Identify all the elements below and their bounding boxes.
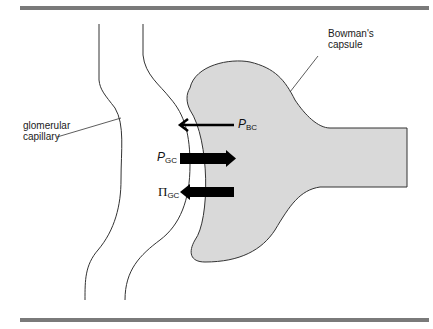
pbc-symbol: P xyxy=(238,117,246,131)
pgc-subscript: GC xyxy=(165,156,177,165)
pbc-subscript: BC xyxy=(246,123,257,132)
bowmans-capsule-label-line1: Bowman's xyxy=(328,28,374,39)
pigc-arrowhead-icon xyxy=(180,184,190,200)
pgc-symbol: P xyxy=(157,150,165,164)
pigc-label: ΠGC xyxy=(158,184,179,200)
glomerular-capillary-label: glomerular capillary xyxy=(23,120,70,142)
pigc-subscript: GC xyxy=(167,191,179,200)
capsule-leader-line xyxy=(290,56,318,92)
top-rule xyxy=(20,6,429,10)
pbc-label: PBC xyxy=(238,117,257,132)
pigc-symbol: Π xyxy=(158,184,167,199)
glomerular-filtration-diagram: Bowman's capsule glomerular capillary PB… xyxy=(0,0,433,329)
bottom-rule xyxy=(20,318,429,322)
capillary-wall-outer xyxy=(85,24,122,300)
glomerular-capillary-label-line2: capillary xyxy=(23,131,70,142)
glomerular-capillary-label-line1: glomerular xyxy=(23,120,70,131)
bowmans-capsule-label-line2: capsule xyxy=(328,39,374,50)
pigc-arrow-shaft xyxy=(189,187,234,197)
pgc-arrow-shaft xyxy=(180,153,226,164)
bowmans-capsule-label: Bowman's capsule xyxy=(328,28,374,50)
pgc-label: PGC xyxy=(157,150,177,165)
